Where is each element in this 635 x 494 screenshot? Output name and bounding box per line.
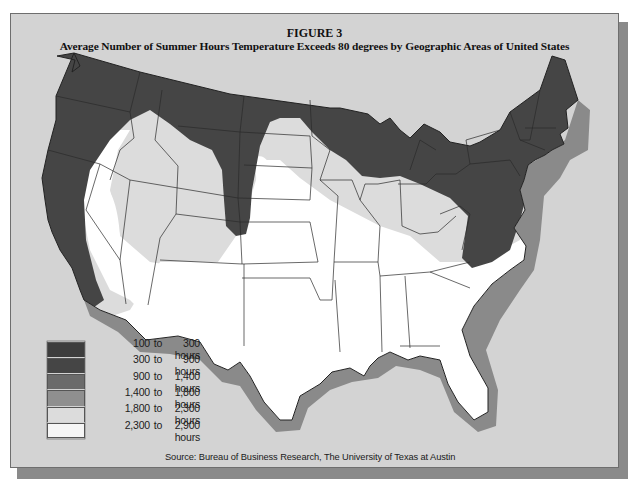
legend-label: 2,300to2,900 hours (90, 419, 200, 443)
legend-item: 2,300to2,900 hours (47, 422, 200, 438)
legend-swatch (47, 358, 85, 373)
source-citation: Source: Bureau of Business Research, The… (165, 452, 455, 462)
legend-swatch (47, 342, 85, 357)
legend-swatch (47, 423, 85, 438)
legend: 100to300 hours 300to900 hours 900to1,400… (47, 341, 200, 439)
legend-swatch (47, 407, 85, 422)
legend-swatch (47, 374, 85, 389)
legend-swatch (47, 390, 85, 405)
